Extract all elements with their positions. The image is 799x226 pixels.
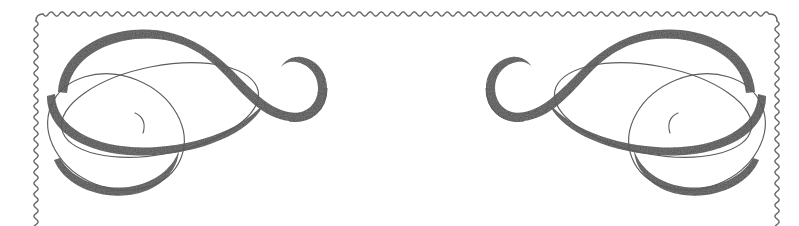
ornament-canvas: Ornamental wavy border with two symmetri…: [0, 0, 799, 226]
ornament-page: Decorative Certificate Border Ornament S…: [0, 0, 799, 226]
